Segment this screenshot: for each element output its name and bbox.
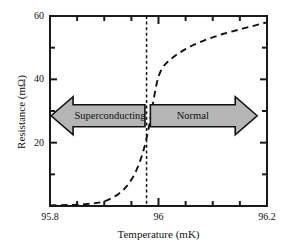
y-tick-label-60: 60	[18, 11, 44, 21]
y-axis-title: Resistance (mΩ)	[15, 47, 27, 177]
x-axis-title: Temperature (mK)	[49, 228, 268, 240]
x-tick-label-96: 96	[139, 212, 179, 222]
x-tick-label-96-2: 96.2	[247, 212, 284, 222]
x-tick-label-95-8: 95.8	[30, 212, 70, 222]
normal-arrow-label: Normal	[177, 110, 209, 121]
chart-figure: Superconducting Normal 60 40 20 95.8 96 …	[0, 0, 284, 248]
superconducting-arrow-label: Superconducting	[74, 110, 146, 121]
